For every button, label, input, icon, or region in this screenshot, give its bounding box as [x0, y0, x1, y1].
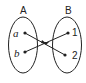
set-a-label: A — [20, 5, 27, 16]
element-1: 1 — [72, 27, 78, 38]
set-a-oval — [9, 17, 38, 73]
arrow-a-to-2 — [25, 33, 65, 55]
element-a: a — [13, 27, 19, 39]
element-b: b — [14, 47, 20, 59]
element-2: 2 — [72, 50, 78, 61]
set-b-oval — [53, 17, 82, 73]
mapping-diagram: A B a b 1 2 — [0, 0, 86, 83]
set-b-label: B — [65, 5, 72, 16]
